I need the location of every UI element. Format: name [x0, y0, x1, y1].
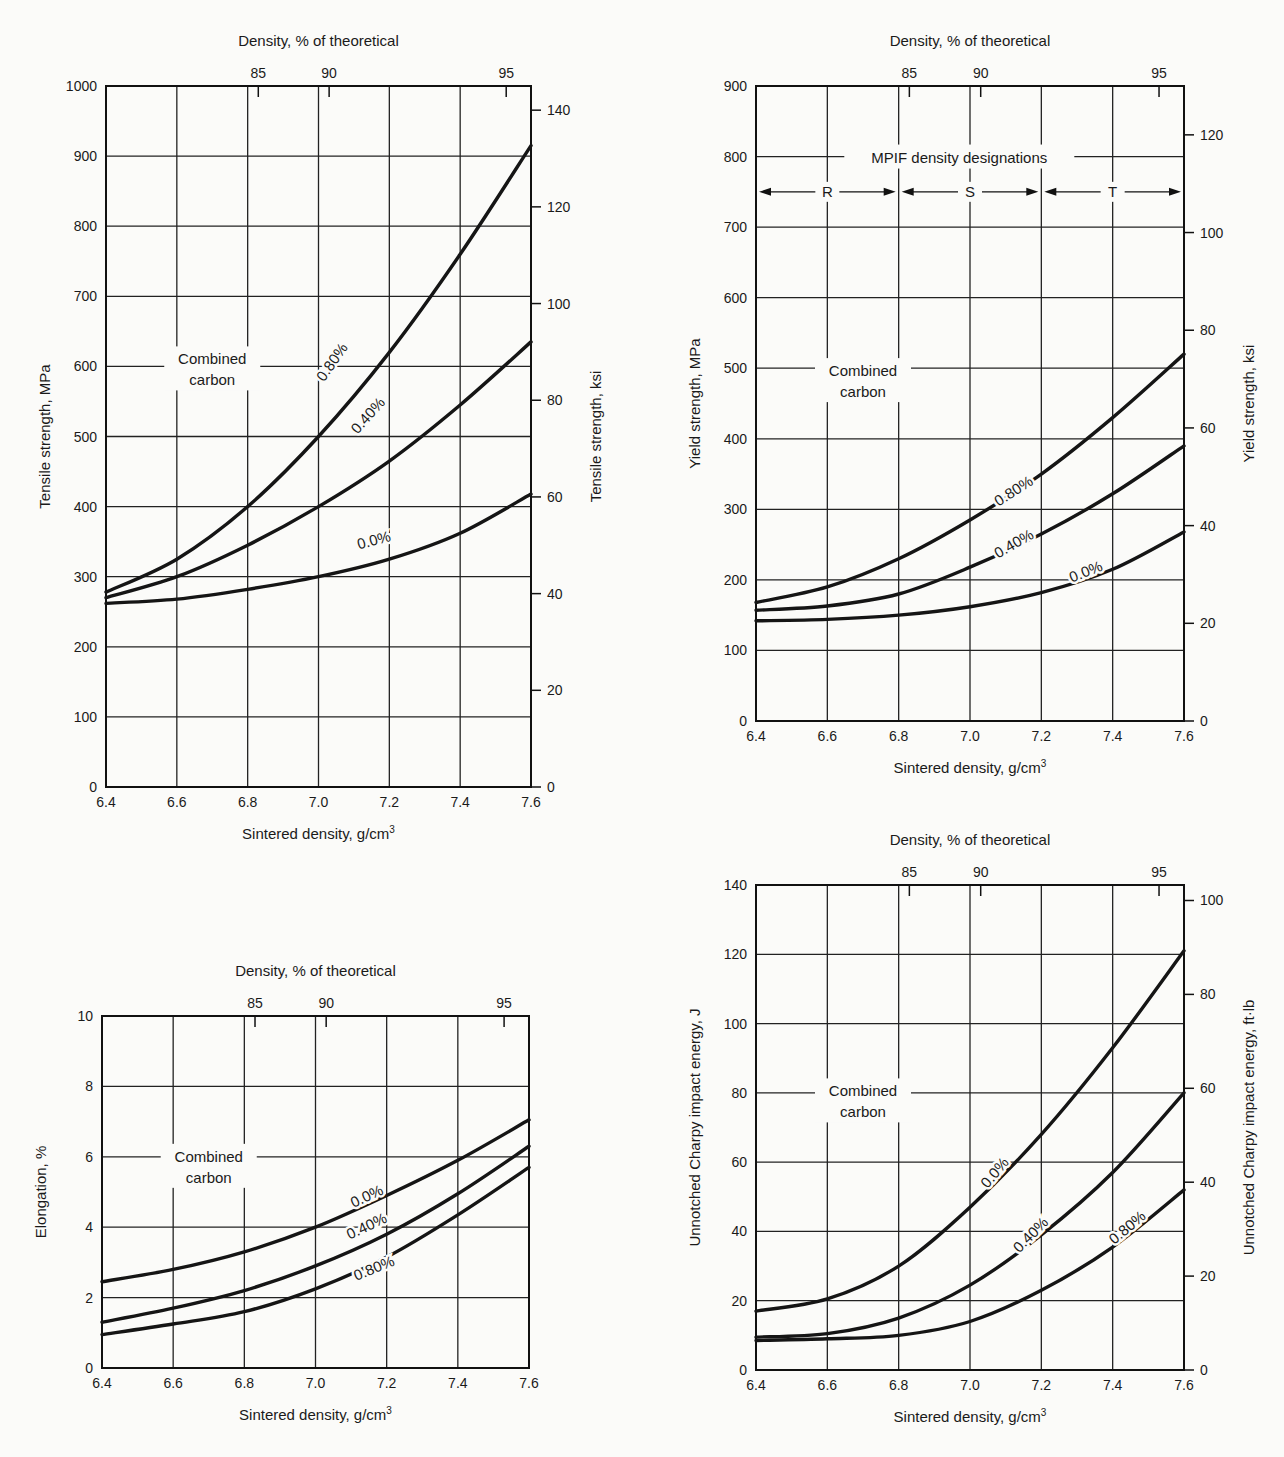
- y-tick-label: 40: [731, 1223, 747, 1239]
- top-tick-label: 95: [498, 65, 514, 81]
- right-axis-title: Unnotched Charpy impact energy, ft·lb: [1240, 1000, 1257, 1256]
- top-tick-label: 95: [496, 995, 512, 1011]
- y-tick-label: 600: [724, 290, 748, 306]
- x-tick-label: 7.0: [309, 794, 329, 810]
- x-tick-label: 7.6: [1174, 728, 1194, 744]
- y-tick-label: 0: [739, 1362, 747, 1378]
- series-label: 0.40%: [347, 394, 388, 437]
- series-label: 0.80%: [1105, 1207, 1149, 1247]
- top-axis-title: Density, % of theoretical: [238, 32, 399, 49]
- x-tick-label: 7.0: [960, 1377, 980, 1393]
- right-tick-label: 40: [547, 586, 563, 602]
- right-tick-label: 140: [547, 102, 571, 118]
- charpy-impact-chart: 0204060801001201406.46.66.87.07.27.47.68…: [686, 831, 1257, 1425]
- x-tick-label: 6.4: [746, 1377, 766, 1393]
- x-tick-label: 7.4: [1103, 728, 1123, 744]
- right-tick-label: 40: [1200, 518, 1216, 534]
- legend-title-line: carbon: [189, 371, 235, 388]
- top-tick-label: 90: [318, 995, 334, 1011]
- density-designation-R: R: [822, 183, 833, 200]
- y-tick-label: 120: [724, 946, 748, 962]
- x-tick-label: 6.8: [235, 1375, 255, 1391]
- y-tick-label: 6: [85, 1149, 93, 1165]
- top-axis-title: Density, % of theoretical: [235, 962, 396, 979]
- x-tick-label: 6.4: [746, 728, 766, 744]
- top-tick-label: 85: [251, 65, 267, 81]
- x-tick-label: 7.4: [450, 794, 470, 810]
- x-tick-label: 7.0: [960, 728, 980, 744]
- legend-title-line: carbon: [840, 383, 886, 400]
- elongation-chart: 02468106.46.66.87.07.27.47.6859095Densit…: [32, 962, 539, 1423]
- right-tick-label: 20: [1200, 1268, 1216, 1284]
- top-tick-label: 90: [973, 65, 989, 81]
- y-tick-label: 10: [77, 1008, 93, 1024]
- x-tick-label: 6.6: [167, 794, 187, 810]
- y-tick-label: 800: [74, 218, 98, 234]
- top-tick-label: 95: [1151, 65, 1167, 81]
- right-tick-label: 0: [547, 779, 555, 795]
- y-tick-label: 800: [724, 149, 748, 165]
- y-tick-label: 0: [85, 1360, 93, 1376]
- y-tick-label: 0: [89, 779, 97, 795]
- right-tick-label: 120: [547, 199, 571, 215]
- y-tick-label: 100: [724, 1016, 748, 1032]
- series-label: 0.80%: [351, 1252, 397, 1284]
- x-tick-label: 6.6: [818, 728, 838, 744]
- x-tick-label: 7.6: [521, 794, 541, 810]
- x-axis-title: Sintered density, g/cm3: [894, 758, 1047, 776]
- x-axis-title: Sintered density, g/cm3: [239, 1405, 392, 1423]
- mpif-annotation: MPIF density designations: [871, 149, 1047, 166]
- top-axis-title: Density, % of theoretical: [890, 32, 1051, 49]
- top-tick-label: 85: [247, 995, 263, 1011]
- top-tick-label: 85: [902, 65, 918, 81]
- y-tick-label: 4: [85, 1219, 93, 1235]
- y-tick-label: 200: [724, 572, 748, 588]
- y-tick-label: 400: [74, 499, 98, 515]
- y-tick-label: 0: [739, 713, 747, 729]
- density-designation-T: T: [1108, 183, 1117, 200]
- y-tick-label: 8: [85, 1078, 93, 1094]
- y-axis-title: Unnotched Charpy impact energy, J: [686, 1008, 703, 1246]
- y-tick-label: 700: [74, 288, 98, 304]
- top-tick-label: 95: [1151, 864, 1167, 880]
- x-axis-title: Sintered density, g/cm3: [242, 824, 395, 842]
- right-tick-label: 80: [1200, 986, 1216, 1002]
- x-tick-label: 7.2: [1032, 1377, 1052, 1393]
- y-tick-label: 20: [731, 1293, 747, 1309]
- x-tick-label: 7.4: [1103, 1377, 1123, 1393]
- x-tick-label: 6.6: [818, 1377, 838, 1393]
- right-tick-label: 80: [1200, 322, 1216, 338]
- x-tick-label: 7.6: [519, 1375, 539, 1391]
- x-tick-label: 7.0: [306, 1375, 326, 1391]
- right-tick-label: 120: [1200, 127, 1224, 143]
- legend-title-line: carbon: [840, 1103, 886, 1120]
- y-tick-label: 300: [74, 569, 98, 585]
- y-tick-label: 1000: [66, 78, 97, 94]
- right-tick-label: 40: [1200, 1174, 1216, 1190]
- y-tick-label: 100: [724, 642, 748, 658]
- x-tick-label: 7.2: [1032, 728, 1052, 744]
- series-label: 0.40%: [991, 525, 1036, 561]
- top-tick-label: 90: [973, 864, 989, 880]
- right-tick-label: 100: [1200, 225, 1224, 241]
- y-tick-label: 2: [85, 1290, 93, 1306]
- top-tick-label: 90: [321, 65, 337, 81]
- right-tick-label: 0: [1200, 1362, 1208, 1378]
- tensile-strength-chart: 010020030040050060070080090010006.46.66.…: [36, 32, 604, 842]
- y-axis-title: Elongation, %: [32, 1146, 49, 1239]
- y-tick-label: 900: [724, 78, 748, 94]
- right-tick-label: 0: [1200, 713, 1208, 729]
- x-tick-label: 6.4: [92, 1375, 112, 1391]
- right-axis-title: Tensile strength, ksi: [587, 371, 604, 503]
- right-tick-label: 20: [547, 682, 563, 698]
- x-tick-label: 6.8: [889, 1377, 909, 1393]
- top-tick-label: 85: [902, 864, 918, 880]
- y-tick-label: 500: [74, 429, 98, 445]
- right-tick-label: 80: [547, 392, 563, 408]
- yield-strength-chart: 01002003004005006007008009006.46.66.87.0…: [686, 32, 1257, 776]
- right-axis-title: Yield strength, ksi: [1240, 345, 1257, 463]
- x-tick-label: 6.8: [889, 728, 909, 744]
- right-tick-label: 100: [547, 296, 571, 312]
- legend-title-line: Combined: [178, 350, 246, 367]
- y-tick-label: 400: [724, 431, 748, 447]
